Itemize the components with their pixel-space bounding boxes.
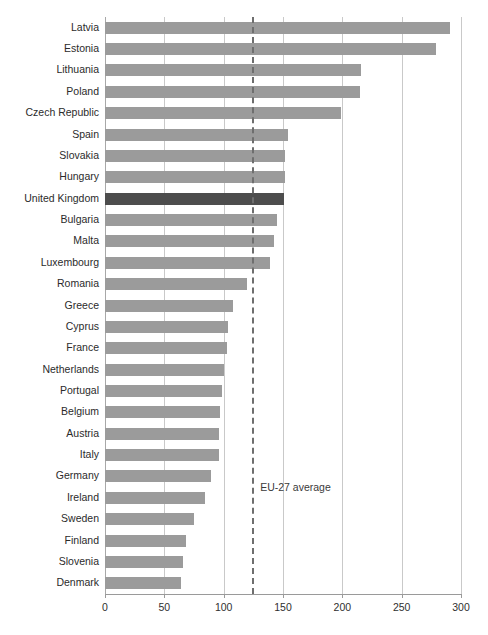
category-label-france: France	[66, 342, 99, 353]
category-label-slovenia: Slovenia	[59, 556, 99, 567]
x-tick-300	[461, 594, 462, 598]
bar-malta[interactable]	[105, 235, 274, 247]
x-tick-label-300: 300	[452, 601, 470, 613]
category-label-romania: Romania	[57, 278, 99, 289]
bar-italy[interactable]	[105, 449, 219, 461]
gridline-150	[283, 17, 284, 594]
category-label-hungary: Hungary	[59, 171, 99, 182]
x-tick-200	[342, 594, 343, 598]
category-label-lithuania: Lithuania	[56, 64, 99, 75]
plot-right-border	[461, 17, 462, 594]
category-label-sweden: Sweden	[61, 513, 99, 524]
x-tick-label-150: 150	[274, 601, 292, 613]
gridline-250	[402, 17, 403, 594]
bar-austria[interactable]	[105, 428, 219, 440]
x-tick-100	[224, 594, 225, 598]
x-tick-label-100: 100	[215, 601, 233, 613]
category-label-spain: Spain	[72, 129, 99, 140]
bar-poland[interactable]	[105, 86, 360, 98]
x-tick-label-200: 200	[334, 601, 352, 613]
bar-sweden[interactable]	[105, 513, 194, 525]
category-label-estonia: Estonia	[64, 43, 99, 54]
bar-luxembourg[interactable]	[105, 257, 270, 269]
bar-denmark[interactable]	[105, 577, 181, 589]
category-label-austria: Austria	[66, 428, 99, 439]
x-tick-label-0: 0	[102, 601, 108, 613]
x-tick-50	[164, 594, 165, 598]
category-label-belgium: Belgium	[61, 406, 99, 417]
bar-portugal[interactable]	[105, 385, 222, 397]
bar-belgium[interactable]	[105, 406, 220, 418]
category-label-ireland: Ireland	[67, 492, 99, 503]
category-label-czech-republic: Czech Republic	[25, 107, 99, 118]
bar-latvia[interactable]	[105, 22, 450, 34]
category-label-malta: Malta	[73, 235, 99, 246]
bar-lithuania[interactable]	[105, 64, 361, 76]
bar-slovakia[interactable]	[105, 150, 285, 162]
category-label-finland: Finland	[65, 535, 99, 546]
category-label-greece: Greece	[65, 300, 99, 311]
x-tick-label-50: 50	[158, 601, 170, 613]
category-label-poland: Poland	[66, 86, 99, 97]
category-label-netherlands: Netherlands	[42, 364, 99, 375]
category-label-denmark: Denmark	[56, 577, 99, 588]
bar-finland[interactable]	[105, 535, 186, 547]
category-label-italy: Italy	[80, 449, 99, 460]
bar-chart: LatviaEstoniaLithuaniaPolandCzech Republ…	[0, 0, 488, 635]
category-label-cyprus: Cyprus	[66, 321, 99, 332]
average-line-label: EU-27 average	[260, 481, 331, 493]
x-tick-0	[105, 594, 106, 598]
x-tick-150	[283, 594, 284, 598]
bar-ireland[interactable]	[105, 492, 205, 504]
category-axis: LatviaEstoniaLithuaniaPolandCzech Republ…	[0, 17, 99, 594]
x-tick-label-250: 250	[393, 601, 411, 613]
bar-hungary[interactable]	[105, 171, 285, 183]
bar-united-kingdom[interactable]	[105, 193, 284, 205]
average-line	[252, 17, 254, 594]
category-label-slovakia: Slovakia	[59, 150, 99, 161]
x-tick-250	[402, 594, 403, 598]
bar-cyprus[interactable]	[105, 321, 228, 333]
bar-spain[interactable]	[105, 129, 288, 141]
category-label-latvia: Latvia	[71, 22, 99, 33]
bar-romania[interactable]	[105, 278, 247, 290]
bar-slovenia[interactable]	[105, 556, 183, 568]
bar-france[interactable]	[105, 342, 227, 354]
category-label-germany: Germany	[56, 470, 99, 481]
category-label-portugal: Portugal	[60, 385, 99, 396]
bar-greece[interactable]	[105, 300, 233, 312]
bar-germany[interactable]	[105, 470, 211, 482]
gridline-200	[342, 17, 343, 594]
category-label-luxembourg: Luxembourg	[41, 257, 99, 268]
category-label-bulgaria: Bulgaria	[60, 214, 99, 225]
plot-area: EU-27 average	[105, 17, 461, 594]
bar-netherlands[interactable]	[105, 364, 224, 376]
bar-czech-republic[interactable]	[105, 107, 341, 119]
bar-estonia[interactable]	[105, 43, 436, 55]
category-label-united-kingdom: United Kingdom	[24, 193, 99, 204]
